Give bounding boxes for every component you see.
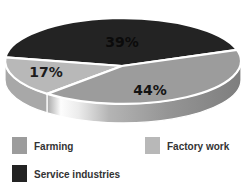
legend-item-farming: Farming bbox=[12, 137, 73, 154]
legend-swatch-service-industries bbox=[12, 165, 27, 182]
legend-item-factory-work: Factory work bbox=[145, 137, 230, 154]
slice-label-factory-work: 17% bbox=[29, 64, 63, 80]
legend-swatch-farming bbox=[12, 137, 27, 154]
slice-label-service-industries: 39% bbox=[105, 34, 139, 50]
legend-label-factory-work: Factory work bbox=[167, 141, 230, 152]
legend-item-service-industries: Service industries bbox=[12, 165, 121, 182]
slice-label-farming: 44% bbox=[133, 82, 167, 98]
legend-swatch-factory-work bbox=[145, 137, 160, 154]
legend: Farming Factory work Service industries bbox=[12, 137, 230, 182]
pie-chart-3d: 39% 17% 44% Farming Factory work Service… bbox=[0, 0, 246, 185]
legend-label-service-industries: Service industries bbox=[34, 169, 121, 180]
pie-chart-figure: 39% 17% 44% Farming Factory work Service… bbox=[0, 0, 246, 185]
legend-label-farming: Farming bbox=[34, 141, 73, 152]
